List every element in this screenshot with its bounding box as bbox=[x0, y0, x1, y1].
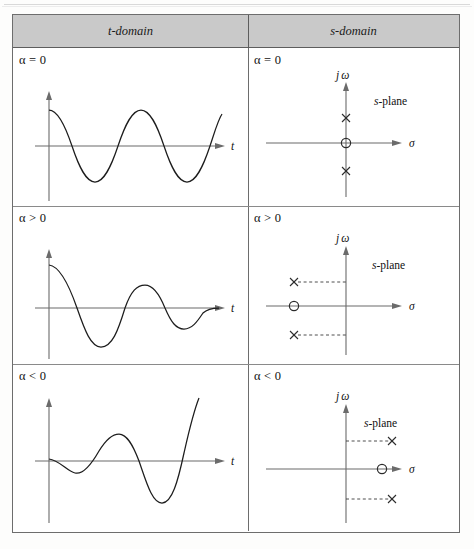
row3-t-domain-svg: t bbox=[17, 383, 247, 528]
row3-s-jomega-arrowhead bbox=[343, 404, 349, 413]
row3-condition-s: α < 0 bbox=[254, 369, 281, 384]
t-domain-s-domain-table: t-domain s-domain α = 0 t bbox=[12, 14, 460, 533]
row3-t-axis-label: t bbox=[231, 455, 235, 467]
row1-t-domain-plot: t bbox=[17, 67, 247, 203]
row3-s-jomega-label: jω bbox=[334, 390, 349, 403]
row3-pole-lower bbox=[388, 495, 396, 503]
row2-pole-lower bbox=[290, 331, 298, 339]
row3-s-plane-caption: s-plane bbox=[364, 417, 397, 430]
row2-condition-s: α > 0 bbox=[254, 211, 281, 226]
table-header-row: t-domain s-domain bbox=[13, 15, 459, 48]
column-header-s-domain: s-domain bbox=[248, 15, 459, 48]
scan-artifact-line-top-2 bbox=[2, 6, 472, 7]
row1-s-sigma-arrowhead bbox=[392, 140, 402, 146]
row2-s-sigma-label: σ bbox=[409, 300, 416, 312]
body-column-divider bbox=[248, 48, 249, 531]
figure-page: t-domain s-domain α = 0 t bbox=[0, 0, 474, 549]
row2-t-waveform bbox=[49, 265, 219, 347]
row1-s-sigma-label: σ bbox=[409, 137, 416, 149]
row3-t-waveform bbox=[49, 398, 199, 503]
row1-condition-t: α = 0 bbox=[19, 53, 46, 68]
row3-condition-t: α < 0 bbox=[19, 369, 46, 384]
row3-s-sigma-label: σ bbox=[409, 463, 416, 475]
row2-t-domain-svg: t bbox=[17, 225, 247, 361]
row3-s-domain-svg: jω σ s-plane bbox=[252, 383, 458, 528]
row1-s-domain-svg: jω σ s-plane bbox=[252, 67, 458, 203]
column-header-s-domain-label: s-domain bbox=[330, 24, 377, 38]
row2-s-jomega-arrowhead bbox=[343, 246, 349, 255]
row1-s-jomega-arrowhead bbox=[343, 82, 349, 91]
row2-t-vertical-arrowhead bbox=[46, 249, 52, 258]
row3-s-domain-plot: jω σ s-plane bbox=[252, 383, 458, 528]
row1-s-jomega-label: jω bbox=[334, 69, 349, 82]
row1-t-domain-svg: t bbox=[17, 67, 247, 203]
row2-t-domain-plot: t bbox=[17, 225, 247, 361]
row1-t-vertical-arrowhead bbox=[46, 91, 52, 100]
row2-s-domain-plot: jω σ s-plane bbox=[252, 225, 458, 361]
row2-condition-t: α > 0 bbox=[19, 211, 46, 226]
row-divider-2 bbox=[13, 364, 459, 365]
row2-s-jomega-label: jω bbox=[334, 232, 349, 245]
row1-s-domain-plot: jω σ s-plane bbox=[252, 67, 458, 203]
column-header-t-domain-label: t-domain bbox=[108, 24, 153, 38]
row2-s-domain-svg: jω σ s-plane bbox=[252, 225, 458, 361]
row1-t-horizontal-arrowhead bbox=[215, 143, 225, 149]
row2-t-axis-label: t bbox=[231, 302, 235, 314]
row3-pole-upper bbox=[388, 437, 396, 445]
row3-t-vertical-arrowhead bbox=[46, 398, 52, 407]
row3-s-sigma-arrowhead bbox=[392, 466, 402, 472]
row2-s-sigma-arrowhead bbox=[392, 303, 402, 309]
row2-s-plane-caption: s-plane bbox=[372, 259, 405, 272]
scan-artifact-line-top bbox=[4, 4, 470, 5]
row1-condition-s: α = 0 bbox=[254, 53, 281, 68]
column-header-t-domain: t-domain bbox=[13, 15, 248, 48]
row3-t-domain-plot: t bbox=[17, 383, 247, 528]
row-divider-1 bbox=[13, 206, 459, 207]
row2-pole-upper bbox=[290, 278, 298, 286]
row1-t-axis-label: t bbox=[231, 140, 235, 152]
row1-s-plane-caption: s-plane bbox=[374, 95, 407, 108]
row3-t-horizontal-arrowhead bbox=[215, 458, 225, 464]
